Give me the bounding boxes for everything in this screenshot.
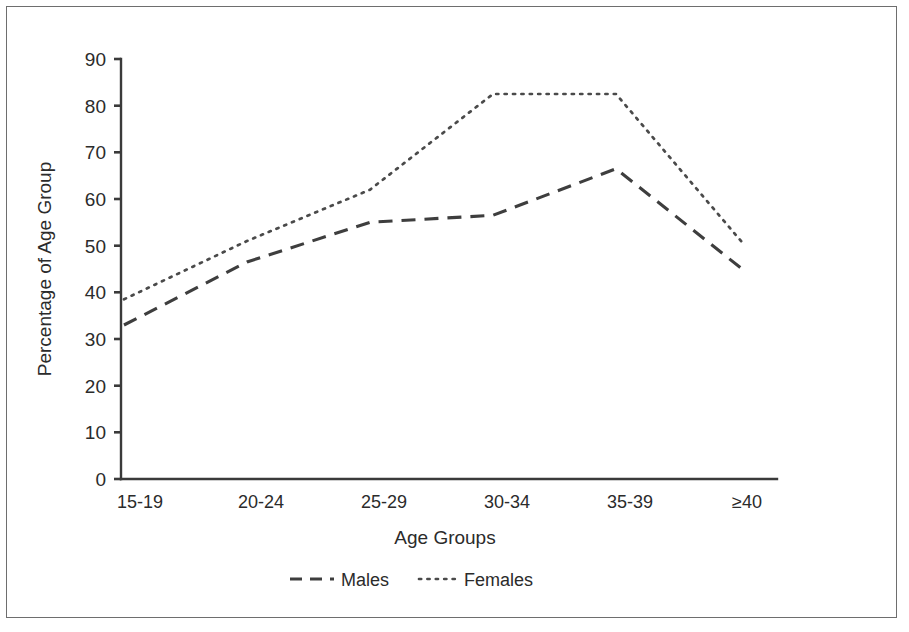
- legend-label-males: Males: [341, 570, 389, 590]
- y-tick-label-60: 60: [85, 189, 106, 210]
- y-axis-group: 90 80 70 60 50 40 30 20 10 0 Percentage …: [34, 49, 121, 490]
- y-tick-label-10: 10: [85, 422, 106, 443]
- y-tick-label-70: 70: [85, 142, 106, 163]
- series-line-males: [124, 169, 745, 325]
- y-tick-label-50: 50: [85, 236, 106, 257]
- y-tick-label-30: 30: [85, 329, 106, 350]
- series-group: [124, 94, 745, 325]
- x-axis-group: 15-19 20-24 25-29 30-34 35-39 ≥40 Age Gr…: [117, 479, 777, 548]
- x-tick-label-35-39: 35-39: [607, 492, 653, 512]
- series-line-females: [124, 94, 745, 299]
- y-tick-label-20: 20: [85, 376, 106, 397]
- chart-svg: 90 80 70 60 50 40 30 20 10 0 Percentage …: [7, 7, 898, 619]
- y-tick-label-80: 80: [85, 96, 106, 117]
- x-tick-label-40plus: ≥40: [732, 492, 762, 512]
- y-axis-title: Percentage of Age Group: [34, 162, 55, 376]
- x-tick-label-30-34: 30-34: [484, 492, 530, 512]
- x-axis-title: Age Groups: [394, 527, 495, 548]
- x-tick-label-25-29: 25-29: [361, 492, 407, 512]
- line-chart: 90 80 70 60 50 40 30 20 10 0 Percentage …: [7, 7, 898, 619]
- legend: Males Females: [290, 570, 533, 590]
- y-tick-label-40: 40: [85, 282, 106, 303]
- figure-frame: 90 80 70 60 50 40 30 20 10 0 Percentage …: [6, 6, 897, 618]
- y-tick-label-0: 0: [95, 469, 106, 490]
- x-tick-label-15-19: 15-19: [117, 492, 163, 512]
- legend-label-females: Females: [464, 570, 533, 590]
- x-tick-label-20-24: 20-24: [238, 492, 284, 512]
- y-tick-label-90: 90: [85, 49, 106, 70]
